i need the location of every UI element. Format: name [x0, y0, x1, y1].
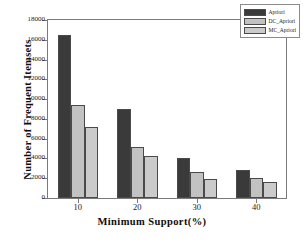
legend-label: DC_Apriori — [269, 18, 296, 25]
y-axis-tick-label: 2000 — [31, 172, 45, 183]
bar — [71, 105, 85, 198]
bar — [190, 172, 204, 198]
legend-swatch — [244, 9, 266, 16]
bar — [236, 170, 250, 198]
x-axis-tick-label: 30 — [193, 202, 202, 212]
bar — [204, 179, 218, 198]
legend-swatch — [244, 27, 266, 34]
legend-item: MC_Apriori — [244, 26, 297, 34]
y-axis-tick-label: 4000 — [31, 152, 45, 163]
y-axis-tick-label: 0 — [42, 192, 46, 203]
legend-item: DC_Apriori — [244, 17, 297, 25]
bar — [177, 158, 191, 198]
bar — [117, 109, 131, 198]
y-axis-title: Number of Frequent Itemsets — [22, 22, 33, 198]
legend-swatch — [244, 18, 266, 25]
plot-area: 0200040006000800010000120001400016000180… — [48, 20, 286, 198]
bar — [58, 35, 72, 198]
legend-label: Apriori — [269, 9, 285, 16]
chart-figure: 0200040006000800010000120001400016000180… — [0, 0, 304, 242]
y-axis-tick-label: 8000 — [31, 113, 45, 124]
bar — [144, 156, 158, 198]
x-axis-tick-label: 10 — [74, 202, 83, 212]
y-axis-tick-label: 6000 — [31, 133, 45, 144]
bar — [85, 127, 99, 198]
x-axis-tick-label: 40 — [252, 202, 261, 212]
plot-frame: 0200040006000800010000120001400016000180… — [47, 19, 287, 199]
chart-legend: AprioriDC_AprioriMC_Apriori — [240, 4, 301, 38]
bar — [250, 178, 264, 198]
legend-item: Apriori — [244, 8, 297, 16]
bar — [131, 147, 145, 198]
legend-label: MC_Apriori — [269, 27, 297, 34]
x-axis-title: Minimum Support(%) — [0, 216, 304, 227]
x-axis-tick-label: 20 — [133, 202, 142, 212]
bar — [263, 182, 277, 198]
